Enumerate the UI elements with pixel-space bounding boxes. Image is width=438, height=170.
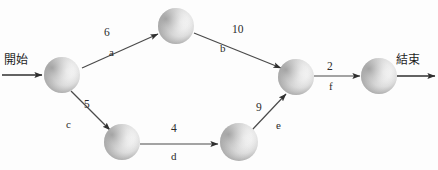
- node-sphere-shade: [220, 123, 258, 161]
- start-terminal-label: 開始: [4, 54, 28, 66]
- node-sphere-shade: [361, 58, 397, 94]
- edge-weight-d: 4: [171, 123, 177, 135]
- node-n3: [104, 124, 140, 160]
- node-n2: [158, 8, 194, 44]
- node-sphere-shade: [104, 124, 140, 160]
- edge-weight-c: 5: [84, 99, 90, 111]
- edge-name-e: e: [276, 120, 281, 131]
- node-sphere-shade: [278, 59, 314, 95]
- edge-name-c: c: [66, 119, 71, 130]
- edge-a: [82, 34, 158, 68]
- nodes-layer: [44, 8, 397, 161]
- node-n1: [44, 57, 80, 93]
- edge-name-f: f: [329, 81, 333, 92]
- node-n4: [220, 123, 258, 161]
- graph-svg: [0, 0, 438, 170]
- edge-b: [194, 33, 281, 68]
- node-n5: [278, 59, 314, 95]
- edge-c: [71, 91, 110, 130]
- edge-name-a: a: [109, 47, 114, 58]
- edge-weight-f: 2: [327, 61, 333, 73]
- end-terminal-label: 結束: [396, 54, 420, 66]
- edge-name-b: b: [220, 43, 226, 54]
- node-sphere-shade: [44, 57, 80, 93]
- edge-weight-b: 10: [232, 24, 244, 36]
- edge-weight-a: 6: [104, 27, 110, 39]
- edge-weight-e: 9: [256, 102, 262, 114]
- node-n6: [361, 58, 397, 94]
- diagram-canvas: 6a10b5c4d9e2f 開始 結束: [0, 0, 438, 170]
- node-sphere-shade: [158, 8, 194, 44]
- edge-name-d: d: [171, 151, 177, 162]
